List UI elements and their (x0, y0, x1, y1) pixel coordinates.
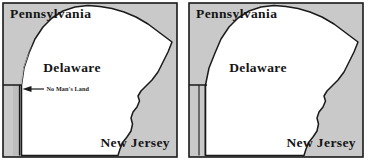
label-pennsylvania-right: Pennsylvania (196, 6, 277, 21)
label-delaware-right: Delaware (229, 60, 287, 75)
delaware-boundary-figure: Pennsylvania Delaware New Jersey No Man'… (0, 0, 371, 164)
label-new-jersey-right: New Jersey (286, 135, 356, 150)
map-svg-left: Pennsylvania Delaware New Jersey No Man'… (0, 0, 180, 160)
label-no-mans-land: No Man's Land (47, 85, 90, 92)
map-svg-right: Pennsylvania Delaware New Jersey (186, 0, 366, 160)
map-panel-right: Pennsylvania Delaware New Jersey (186, 0, 366, 160)
label-delaware-left: Delaware (43, 60, 101, 75)
west-strip-right (199, 85, 205, 156)
map-panel-left: Pennsylvania Delaware New Jersey No Man'… (0, 0, 180, 160)
label-pennsylvania-left: Pennsylvania (10, 6, 91, 21)
label-new-jersey-left: New Jersey (100, 135, 170, 150)
